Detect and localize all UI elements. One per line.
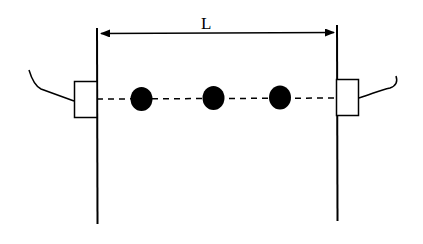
right-sensor-cable xyxy=(359,76,397,98)
left-wall-line xyxy=(97,28,98,224)
particle-dot-3 xyxy=(269,86,291,110)
particle-dot-2 xyxy=(203,86,225,110)
particle-dot-1 xyxy=(131,87,153,111)
length-dimension-arrow xyxy=(101,33,334,34)
diagram-canvas: L xyxy=(0,0,423,244)
right-sensor-box xyxy=(337,80,359,116)
length-label: L xyxy=(201,14,211,33)
left-sensor-cable xyxy=(29,70,74,101)
right-wall-line xyxy=(337,25,338,221)
left-sensor-box xyxy=(75,82,98,118)
